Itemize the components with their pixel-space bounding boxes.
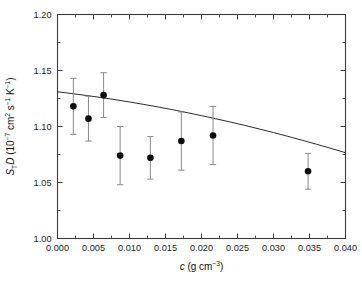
x-tick-label: 0.030: [262, 243, 285, 253]
y-tick-label: 1.00: [34, 234, 52, 244]
y-tick-label: 1.05: [34, 178, 52, 188]
y-tick-label: 1.20: [34, 10, 52, 20]
y-axis-title: STD (10−7 cm2 s−1 K−1): [4, 77, 17, 175]
data-point: [100, 92, 107, 99]
fit-curve: [58, 92, 346, 153]
y-tick-label: 1.10: [34, 122, 52, 132]
x-axis-ticks: [58, 15, 346, 239]
chart-canvas: 0.0000.0050.0100.0150.0200.0250.0300.035…: [0, 0, 362, 283]
x-tick-label: 0.025: [226, 243, 249, 253]
data-point: [147, 155, 154, 162]
y-axis-tick-labels: 1.001.051.101.151.20: [34, 10, 52, 244]
x-tick-label: 0.000: [46, 243, 69, 253]
model-fit-line: [58, 92, 346, 153]
data-point: [70, 103, 77, 110]
data-point: [85, 115, 92, 122]
x-tick-label: 0.015: [154, 243, 177, 253]
x-tick-label: 0.020: [190, 243, 213, 253]
x-tick-label: 0.010: [118, 243, 141, 253]
data-point: [178, 138, 185, 145]
figure-panel: 0.0000.0050.0100.0150.0200.0250.0300.035…: [0, 0, 362, 283]
data-point: [210, 132, 217, 139]
x-axis-title: c (g cm−3): [180, 260, 224, 272]
error-bars: [70, 73, 311, 189]
axes-frame: [58, 15, 346, 239]
data-point: [117, 152, 124, 159]
y-axis-title-text: STD (10−7 cm2 s−1 K−1): [4, 77, 17, 175]
x-axis-tick-labels: 0.0000.0050.0100.0150.0200.0250.0300.035…: [46, 243, 357, 253]
x-axis-title-text: c (g cm−3): [180, 260, 224, 272]
data-point: [305, 168, 312, 175]
x-tick-label: 0.035: [298, 243, 321, 253]
x-tick-label: 0.005: [82, 243, 105, 253]
y-axis-ticks: [58, 15, 346, 239]
x-tick-label: 0.040: [334, 243, 357, 253]
y-tick-label: 1.15: [34, 66, 52, 76]
plot-frame: [58, 15, 346, 239]
